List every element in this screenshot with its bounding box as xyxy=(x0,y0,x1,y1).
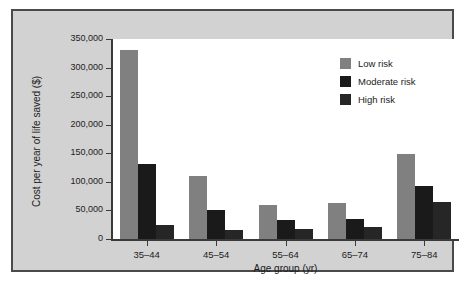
bar xyxy=(207,210,225,239)
y-tick-label: 150,000 xyxy=(37,148,103,157)
x-tick-mark xyxy=(147,241,148,246)
y-tick-label: 300,000 xyxy=(37,63,103,72)
y-tick-mark xyxy=(106,239,112,240)
bar xyxy=(415,186,433,239)
legend-label: High risk xyxy=(358,94,395,105)
bar xyxy=(346,219,364,239)
x-tick-label: 45–54 xyxy=(186,249,246,260)
bar xyxy=(433,202,451,239)
legend-swatch-icon xyxy=(340,76,351,87)
legend-label: Moderate risk xyxy=(358,76,416,87)
legend-item: Low risk xyxy=(340,55,450,71)
y-tick-label-text: 100,000 xyxy=(41,177,103,186)
y-tick-label-text: 350,000 xyxy=(41,34,103,43)
y-tick-label-text: 200,000 xyxy=(41,120,103,129)
bar xyxy=(397,154,415,239)
chart-panel: 050,000100,000150,000200,000250,000300,0… xyxy=(11,9,454,272)
bar xyxy=(328,203,346,239)
y-tick-label: 50,000 xyxy=(37,205,103,214)
bar xyxy=(364,227,382,239)
y-tick-label-text: 50,000 xyxy=(41,205,103,214)
y-tick-label-text: 0 xyxy=(41,234,103,243)
bar xyxy=(156,225,174,239)
bar xyxy=(189,176,207,239)
bar xyxy=(225,230,243,239)
x-axis-title: Age group (yr) xyxy=(112,263,459,274)
chart-legend: Low riskModerate riskHigh risk xyxy=(340,55,450,109)
legend-swatch-icon xyxy=(340,94,351,105)
bar xyxy=(277,220,295,239)
x-tick-mark xyxy=(355,241,356,246)
x-tick-label: 65–74 xyxy=(325,249,385,260)
legend-item: Moderate risk xyxy=(340,73,450,89)
x-tick-label: 35–44 xyxy=(117,249,177,260)
y-tick-label-text: 150,000 xyxy=(41,148,103,157)
bar xyxy=(120,50,138,239)
legend-item: High risk xyxy=(340,91,450,107)
bar xyxy=(138,164,156,239)
y-tick-label: 100,000 xyxy=(37,177,103,186)
x-tick-label: 55–64 xyxy=(256,249,316,260)
x-tick-mark xyxy=(216,241,217,246)
legend-label: Low risk xyxy=(358,58,393,69)
y-tick-label-text: 250,000 xyxy=(41,91,103,100)
x-tick-mark xyxy=(424,241,425,246)
x-tick-mark xyxy=(286,241,287,246)
x-tick-label: 75–84 xyxy=(394,249,454,260)
figure-container: 050,000100,000150,000200,000250,000300,0… xyxy=(0,0,468,285)
y-tick-label: 0 xyxy=(37,234,103,243)
legend-swatch-icon xyxy=(340,58,351,69)
y-axis-title: Cost per year of life saved ($) xyxy=(31,57,42,227)
y-tick-label-text: 300,000 xyxy=(41,63,103,72)
bar xyxy=(259,205,277,239)
y-tick-label: 350,000 xyxy=(37,34,103,43)
y-tick-label: 200,000 xyxy=(37,120,103,129)
bar xyxy=(295,229,313,239)
y-tick-label: 250,000 xyxy=(37,91,103,100)
